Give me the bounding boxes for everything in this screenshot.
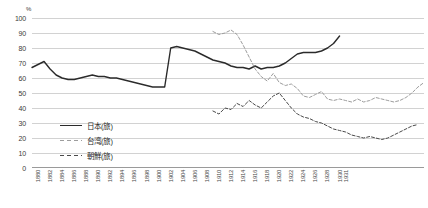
legend-label: 朝鮮(旅) bbox=[87, 150, 113, 161]
y-axis-tick-label: 50 bbox=[6, 90, 26, 97]
x-axis-tick-label: 1900 bbox=[156, 170, 162, 182]
x-axis-tick-label: 1898 bbox=[144, 170, 150, 182]
x-axis-tick-label: 1880 bbox=[35, 170, 41, 182]
x-axis-tick-label: 1926 bbox=[312, 170, 318, 182]
chart-legend: 日本(旅)台湾(旅)朝鮮(旅) bbox=[60, 118, 113, 163]
series-line bbox=[32, 36, 340, 87]
x-axis-tick-label: 1910 bbox=[216, 170, 222, 182]
x-axis-tick-label: 1920 bbox=[276, 170, 282, 182]
y-axis-tick-label: 60 bbox=[6, 75, 26, 82]
series-line bbox=[213, 30, 424, 102]
x-axis-tick-label: 1916 bbox=[252, 170, 258, 182]
x-axis-tick-label: 1902 bbox=[168, 170, 174, 182]
x-axis-tick-label: 1908 bbox=[204, 170, 210, 182]
x-axis-tick-label: 1928 bbox=[324, 170, 330, 182]
legend-label: 日本(旅) bbox=[87, 120, 113, 131]
legend-swatch-icon bbox=[60, 122, 82, 130]
x-axis-tick-labels: 1880188218841886188818901892189418961898… bbox=[32, 170, 424, 208]
x-axis-tick-label: 1890 bbox=[95, 170, 101, 182]
legend-swatch-icon bbox=[60, 152, 82, 160]
x-axis-tick-label: 1912 bbox=[228, 170, 234, 182]
legend-item: 日本(旅) bbox=[60, 118, 113, 133]
y-axis-tick-label: 20 bbox=[6, 135, 26, 142]
y-axis-tick-label: 0 bbox=[6, 165, 26, 172]
x-axis-line bbox=[32, 167, 424, 168]
x-axis-tick-label: 1892 bbox=[107, 170, 113, 182]
legend-label: 台湾(旅) bbox=[87, 135, 113, 146]
x-axis-tick-label: 1918 bbox=[264, 170, 270, 182]
legend-swatch-icon bbox=[60, 137, 82, 145]
x-axis-tick-label: 1914 bbox=[240, 170, 246, 182]
legend-item: 台湾(旅) bbox=[60, 133, 113, 148]
x-axis-tick-label: 1884 bbox=[59, 170, 65, 182]
x-axis-tick-label: 1886 bbox=[71, 170, 77, 182]
x-axis-tick-label: 1888 bbox=[83, 170, 89, 182]
x-axis-tick-label: 1906 bbox=[192, 170, 198, 182]
x-axis-tick-label: 1930 bbox=[337, 170, 343, 182]
x-axis-tick-label: 1882 bbox=[47, 170, 53, 182]
y-axis-tick-label: 80 bbox=[6, 45, 26, 52]
y-axis-tick-label: 70 bbox=[6, 60, 26, 67]
x-axis-tick-label: 1924 bbox=[300, 170, 306, 182]
x-axis-tick-label: 1904 bbox=[180, 170, 186, 182]
x-axis-tick-label: 1922 bbox=[288, 170, 294, 182]
y-axis-tick-label: 30 bbox=[6, 120, 26, 127]
legend-item: 朝鮮(旅) bbox=[60, 148, 113, 163]
x-axis-tick-label: 1894 bbox=[119, 170, 125, 182]
y-axis-tick-label: 90 bbox=[6, 30, 26, 37]
y-axis-tick-label: 40 bbox=[6, 105, 26, 112]
chart-container: % 0102030405060708090100 188018821884188… bbox=[0, 0, 428, 208]
y-axis-tick-label: 100 bbox=[6, 15, 26, 22]
y-axis-tick-label: 10 bbox=[6, 150, 26, 157]
x-axis-tick-label: 1931 bbox=[343, 170, 349, 182]
y-axis-unit-label: % bbox=[26, 6, 31, 12]
x-axis-tick-label: 1896 bbox=[131, 170, 137, 182]
